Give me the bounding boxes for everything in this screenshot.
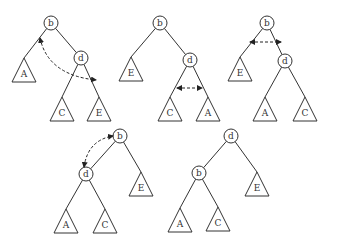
subtree-A: A: [168, 208, 192, 232]
tree-edge: [66, 180, 83, 209]
tree-edge: [91, 141, 116, 169]
node-b: b: [153, 16, 167, 30]
subtree-label: A: [176, 219, 184, 229]
node-label: d: [282, 56, 288, 66]
node-label: d: [187, 55, 193, 65]
subtree-E: E: [87, 97, 111, 121]
tree-edge: [204, 141, 227, 167]
tree-edge: [62, 64, 78, 97]
node-d: d: [74, 51, 88, 65]
node-d: d: [224, 129, 238, 143]
tree-edge: [193, 66, 208, 97]
subtree-E: E: [119, 57, 143, 81]
node-label: d: [228, 131, 234, 141]
subtree-label: C: [167, 108, 174, 118]
node-label: b: [117, 131, 123, 141]
node-label: b: [157, 18, 163, 28]
tree-edge: [24, 29, 47, 58]
tree-edge: [265, 67, 282, 97]
subtree-A: A: [54, 209, 78, 233]
subtree-A: A: [12, 58, 36, 82]
node-label: b: [48, 18, 54, 28]
tree-edge: [84, 64, 99, 97]
subtree-label: C: [215, 218, 222, 228]
tree-edge: [170, 66, 187, 97]
tree2: ECAbd: [119, 16, 220, 121]
subtree-label: E: [96, 108, 103, 118]
subtree-label: C: [302, 108, 309, 118]
subtree-label: E: [237, 68, 244, 78]
tree-rotation-diagram: ACEbdECAbdEACbdEACbdEACdb: [0, 0, 340, 247]
tree1: ACEbd: [12, 16, 111, 121]
node-d: d: [183, 53, 197, 67]
diagram-svg: ACEbdECAbdEACbdEACbdEACdb: [0, 0, 340, 247]
tree-edge: [288, 67, 305, 97]
subtree-C: C: [50, 97, 74, 121]
node-label: d: [83, 169, 89, 179]
subtree-E: E: [228, 57, 252, 81]
subtree-label: C: [59, 108, 66, 118]
node-b: b: [44, 16, 58, 30]
subtree-label: A: [261, 108, 269, 118]
subtree-C: C: [158, 97, 182, 121]
node-b: b: [192, 166, 206, 180]
tree3: EACbd: [228, 16, 317, 121]
node-label: b: [196, 168, 202, 178]
subtree-label: A: [20, 69, 28, 79]
subtree-C: C: [293, 97, 317, 121]
subtree-label: C: [102, 220, 109, 230]
tree-edge: [131, 28, 155, 57]
tree-edge: [124, 142, 141, 172]
swap-arrow-icon: [84, 136, 113, 167]
node-b: b: [260, 16, 274, 30]
node-b: b: [113, 129, 127, 143]
tree-edge: [89, 180, 105, 209]
subtree-E: E: [245, 172, 269, 196]
tree-edge: [164, 28, 185, 54]
subtree-A: A: [196, 97, 220, 121]
subtree-label: A: [204, 108, 212, 118]
subtree-C: C: [206, 207, 230, 231]
subtree-C: C: [93, 209, 117, 233]
tree-edge: [240, 28, 263, 57]
tree5: EACdb: [168, 129, 269, 232]
tree-edge: [56, 28, 77, 52]
subtree-label: A: [62, 220, 70, 230]
subtree-label: E: [138, 183, 145, 193]
tree4: EACbd: [54, 129, 153, 233]
node-d: d: [79, 167, 93, 181]
node-label: d: [78, 53, 84, 63]
node-label: b: [264, 18, 270, 28]
subtree-label: E: [128, 68, 135, 78]
tree-edge: [180, 179, 196, 208]
node-d: d: [278, 54, 292, 68]
subtree-A: A: [253, 97, 277, 121]
tree-edge: [202, 179, 218, 207]
subtree-E: E: [129, 172, 153, 196]
subtree-label: E: [254, 183, 261, 193]
tree-edge: [235, 142, 257, 172]
